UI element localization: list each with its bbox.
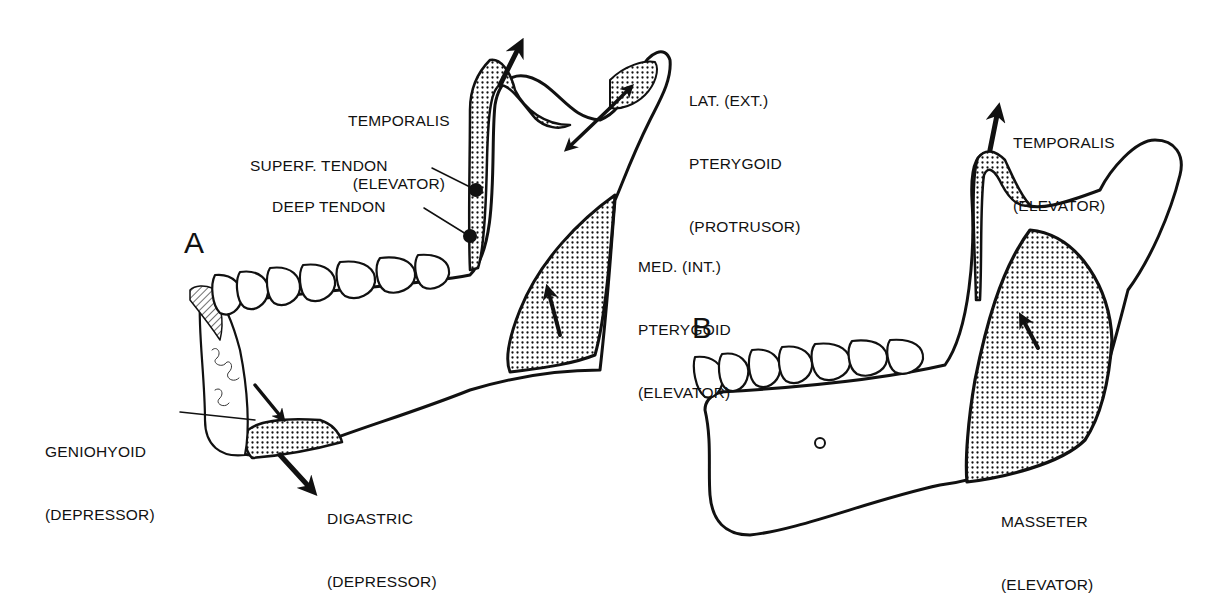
- label-digastric: DIGASTRIC (DEPRESSOR): [327, 466, 437, 597]
- label-deep-tendon: DEEP TENDON: [272, 196, 386, 217]
- label-geniohyoid: GENIOHYOID (DEPRESSOR): [45, 399, 155, 546]
- label-temporalis-b: TEMPORALIS (ELEVATOR): [1013, 90, 1115, 237]
- label-temporalis-a: TEMPORALIS (ELEVATOR): [348, 68, 450, 215]
- panel-label-a: A: [184, 228, 204, 258]
- label-masseter: MASSETER (ELEVATOR): [1001, 469, 1093, 597]
- label-superf-tendon: SUPERF. TENDON: [250, 155, 388, 176]
- label-med-pterygoid: MED. (INT.) PTERYGOID (ELEVATOR): [638, 214, 731, 424]
